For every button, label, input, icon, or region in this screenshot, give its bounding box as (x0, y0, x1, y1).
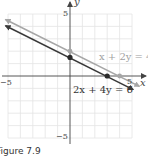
tick-y-5: 5 (63, 10, 68, 18)
y-axis-label: y (74, 0, 80, 7)
point-gray-y-intercept (68, 49, 73, 54)
figure-caption: Figure 7.9 (0, 146, 41, 156)
x-axis-label: x (140, 78, 146, 88)
tick-x-neg5: −5 (0, 79, 12, 87)
point-dark-y-intercept (67, 55, 72, 60)
point-gray-x-intercept (117, 74, 122, 79)
tick-y-neg5: −5 (56, 133, 68, 141)
equation-label-dark: 2x + 4y = 6 (73, 85, 133, 95)
point-dark-x-intercept (105, 73, 110, 78)
equation-label-gray: x + 2y = 4 (99, 52, 148, 62)
coordinate-plane (0, 0, 148, 156)
